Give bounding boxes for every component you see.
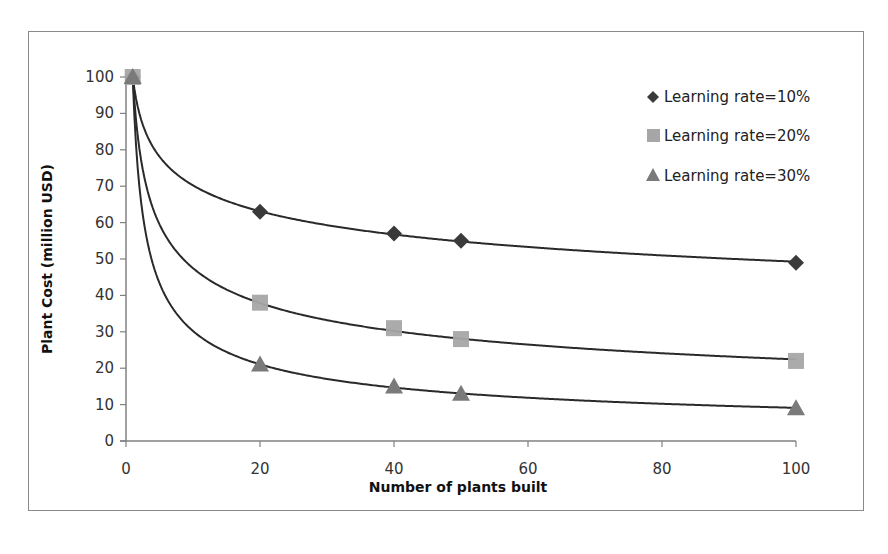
triangle-marker bbox=[385, 377, 403, 393]
diamond-marker bbox=[252, 204, 268, 220]
y-tick-label: 90 bbox=[95, 104, 114, 122]
y-tick-label: 80 bbox=[95, 141, 114, 159]
y-tick-label: 50 bbox=[95, 250, 114, 268]
legend-label: Learning rate=20% bbox=[664, 127, 810, 145]
chart-plot: 0102030405060708090100020406080100 Plant… bbox=[0, 0, 888, 554]
x-tick-label: 0 bbox=[121, 460, 131, 478]
x-tick-label: 60 bbox=[518, 460, 537, 478]
legend: Learning rate=10% Learning rate=20% Lear… bbox=[646, 88, 810, 185]
x-tick-label: 100 bbox=[782, 460, 811, 478]
square-marker bbox=[252, 295, 268, 311]
diamond-icon bbox=[647, 91, 659, 103]
legend-label: Learning rate=30% bbox=[664, 167, 810, 185]
y-tick-label: 100 bbox=[85, 68, 114, 86]
legend-item-10: Learning rate=10% bbox=[647, 88, 810, 106]
triangle-marker bbox=[251, 356, 269, 372]
y-tick-label: 20 bbox=[95, 359, 114, 377]
y-tick-label: 10 bbox=[95, 396, 114, 414]
square-marker bbox=[386, 320, 402, 336]
legend-item-20: Learning rate=20% bbox=[647, 127, 810, 145]
square-marker bbox=[453, 331, 469, 347]
diamond-marker bbox=[788, 255, 804, 271]
y-tick-label: 60 bbox=[95, 214, 114, 232]
diamond-marker bbox=[453, 233, 469, 249]
x-axis-title: Number of plants built bbox=[369, 479, 548, 495]
x-tick-label: 20 bbox=[250, 460, 269, 478]
y-tick-label: 70 bbox=[95, 177, 114, 195]
y-tick-label: 30 bbox=[95, 323, 114, 341]
triangle-icon bbox=[646, 168, 660, 181]
y-tick-label: 0 bbox=[104, 432, 114, 450]
legend-item-30: Learning rate=30% bbox=[646, 167, 810, 185]
y-axis-title: Plant Cost (million USD) bbox=[39, 164, 55, 354]
square-marker bbox=[788, 353, 804, 369]
trendline-2 bbox=[133, 77, 796, 359]
diamond-marker bbox=[386, 226, 402, 242]
data-markers bbox=[124, 68, 805, 415]
legend-label: Learning rate=10% bbox=[664, 88, 810, 106]
x-tick-label: 80 bbox=[652, 460, 671, 478]
square-icon bbox=[647, 129, 660, 142]
y-tick-label: 40 bbox=[95, 286, 114, 304]
x-tick-label: 40 bbox=[384, 460, 403, 478]
